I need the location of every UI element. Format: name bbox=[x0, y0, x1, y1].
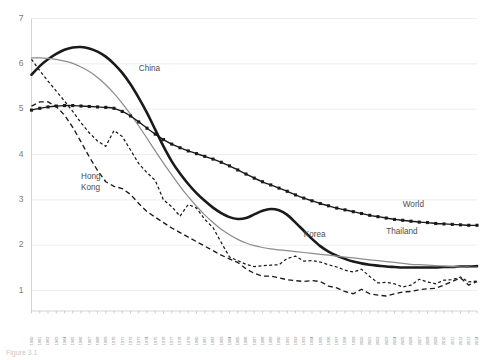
series-label-china: China bbox=[139, 64, 161, 73]
data-point-marker bbox=[360, 212, 363, 215]
data-point-marker bbox=[220, 161, 223, 164]
data-point-marker bbox=[63, 104, 66, 107]
data-point-marker bbox=[418, 221, 421, 224]
data-point-marker bbox=[112, 107, 115, 110]
x-tick-label-1981: 1981 bbox=[202, 337, 207, 346]
data-point-marker bbox=[187, 149, 190, 152]
y-tick-label-2: 2 bbox=[19, 239, 24, 249]
x-tick-label-1966: 1966 bbox=[78, 337, 83, 346]
data-point-marker bbox=[352, 210, 355, 213]
x-tick-label-1961: 1961 bbox=[37, 337, 42, 346]
x-tick-label-2006: 2006 bbox=[408, 337, 413, 346]
x-tick-label-1962: 1962 bbox=[45, 337, 50, 346]
x-tick-label-1982: 1982 bbox=[210, 337, 215, 346]
x-tick-label-2003: 2003 bbox=[384, 337, 389, 346]
chart-canvas: 1234567 19601961196219631964196519661967… bbox=[0, 0, 482, 360]
data-point-marker bbox=[137, 120, 140, 123]
data-point-marker bbox=[79, 104, 82, 107]
series-annotations-group: ChinaThailandWorldHongKongKorea bbox=[81, 64, 424, 239]
data-point-marker bbox=[294, 193, 297, 196]
x-tick-label-1967: 1967 bbox=[87, 337, 92, 346]
x-tick-label-2004: 2004 bbox=[392, 336, 397, 345]
x-tick-label-1979: 1979 bbox=[186, 337, 191, 346]
x-tick-label-2005: 2005 bbox=[400, 337, 405, 346]
data-point-marker bbox=[434, 222, 437, 225]
data-point-marker bbox=[451, 223, 454, 226]
y-tick-label-1: 1 bbox=[19, 285, 24, 295]
data-point-marker bbox=[261, 180, 264, 183]
x-tick-label-1960: 1960 bbox=[29, 336, 34, 345]
x-tick-label-1969: 1969 bbox=[103, 337, 108, 346]
x-tick-label-1963: 1963 bbox=[54, 337, 59, 346]
x-tick-label-2000: 2000 bbox=[359, 336, 364, 345]
data-point-marker bbox=[401, 219, 404, 222]
series-line-thailand bbox=[32, 58, 478, 268]
x-tick-label-2009: 2009 bbox=[433, 337, 438, 346]
data-point-marker bbox=[269, 183, 272, 186]
data-point-marker bbox=[88, 105, 91, 108]
data-point-marker bbox=[286, 190, 289, 193]
x-tick-label-1974: 1974 bbox=[144, 336, 149, 345]
x-tick-label-1980: 1980 bbox=[194, 336, 199, 345]
data-point-marker bbox=[475, 224, 478, 227]
y-axis-tick-labels: 1234567 bbox=[19, 13, 24, 295]
data-point-marker bbox=[459, 223, 462, 226]
x-tick-label-2002: 2002 bbox=[375, 337, 380, 346]
x-tick-label-2010: 2010 bbox=[441, 336, 446, 345]
x-tick-label-1987: 1987 bbox=[252, 337, 257, 346]
fertility-rate-line-chart: 1234567 19601961196219631964196519661967… bbox=[0, 0, 482, 360]
data-point-marker bbox=[30, 109, 33, 112]
data-point-marker bbox=[46, 105, 49, 108]
x-tick-label-1998: 1998 bbox=[342, 337, 347, 346]
x-tick-label-1964: 1964 bbox=[62, 336, 67, 345]
data-point-marker bbox=[393, 218, 396, 221]
data-point-marker bbox=[121, 110, 124, 113]
x-tick-label-2011: 2011 bbox=[450, 337, 455, 345]
data-point-marker bbox=[302, 197, 305, 200]
x-tick-label-1965: 1965 bbox=[70, 337, 75, 346]
x-tick-label-1975: 1975 bbox=[153, 337, 158, 346]
data-point-marker bbox=[170, 143, 173, 146]
data-point-marker bbox=[129, 114, 132, 117]
data-point-marker bbox=[385, 216, 388, 219]
series-label-world: World bbox=[403, 200, 425, 209]
x-tick-label-1999: 1999 bbox=[351, 337, 356, 346]
series-label-thailand: Thailand bbox=[386, 227, 418, 236]
y-tick-label-6: 6 bbox=[19, 58, 24, 68]
x-axis-tick-labels: 1960196119621963196419651966196719681969… bbox=[29, 311, 480, 345]
x-tick-label-1986: 1986 bbox=[243, 337, 248, 346]
x-tick-label-1972: 1972 bbox=[128, 337, 133, 346]
data-point-marker bbox=[343, 208, 346, 211]
y-tick-label-4: 4 bbox=[19, 149, 24, 159]
series-label-hong-kong-line2: Kong bbox=[81, 183, 101, 192]
gridlines-group bbox=[32, 19, 478, 291]
x-tick-label-1997: 1997 bbox=[334, 337, 339, 346]
x-tick-label-1985: 1985 bbox=[235, 337, 240, 346]
data-point-marker bbox=[203, 155, 206, 158]
data-point-marker bbox=[228, 164, 231, 167]
data-point-marker bbox=[426, 221, 429, 224]
data-point-marker bbox=[195, 152, 198, 155]
data-point-marker bbox=[442, 222, 445, 225]
data-point-marker bbox=[368, 214, 371, 217]
data-point-marker bbox=[104, 106, 107, 109]
x-tick-label-1994: 1994 bbox=[309, 336, 314, 345]
data-point-marker bbox=[236, 168, 239, 171]
data-point-marker bbox=[154, 133, 157, 136]
x-tick-label-2013: 2013 bbox=[466, 337, 471, 346]
x-tick-label-1971: 1971 bbox=[120, 337, 125, 346]
data-point-marker bbox=[409, 220, 412, 223]
data-point-marker bbox=[38, 107, 41, 110]
data-point-marker bbox=[96, 105, 99, 108]
x-tick-label-2012: 2012 bbox=[458, 337, 463, 346]
data-point-marker bbox=[327, 204, 330, 207]
x-tick-label-1973: 1973 bbox=[136, 337, 141, 346]
y-tick-label-3: 3 bbox=[19, 194, 24, 204]
x-tick-label-2008: 2008 bbox=[425, 337, 430, 346]
data-point-marker bbox=[319, 202, 322, 205]
x-tick-label-1996: 1996 bbox=[326, 337, 331, 346]
data-point-marker bbox=[178, 146, 181, 149]
x-tick-label-1976: 1976 bbox=[161, 337, 166, 346]
y-tick-label-7: 7 bbox=[19, 13, 24, 23]
data-point-marker bbox=[253, 177, 256, 180]
